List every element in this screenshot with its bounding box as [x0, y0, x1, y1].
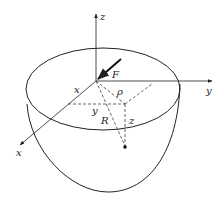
z-axis-label: z [99, 11, 106, 22]
x-axis [20, 81, 96, 145]
paraboloid-bottom [27, 84, 180, 192]
construction-lines [68, 81, 152, 146]
y-coord-label: y [91, 105, 98, 116]
force-label: F [111, 69, 120, 80]
rho-label: ρ [116, 86, 123, 97]
half-space-diagram: z y x F x y ρ R z [0, 0, 223, 200]
x-coord-label: x [74, 84, 80, 95]
field-point [123, 145, 127, 149]
y-axis-label: y [205, 85, 212, 96]
R-label: R [100, 115, 109, 126]
x-axis-label: x [16, 147, 22, 158]
z-coord-label: z [128, 115, 135, 126]
